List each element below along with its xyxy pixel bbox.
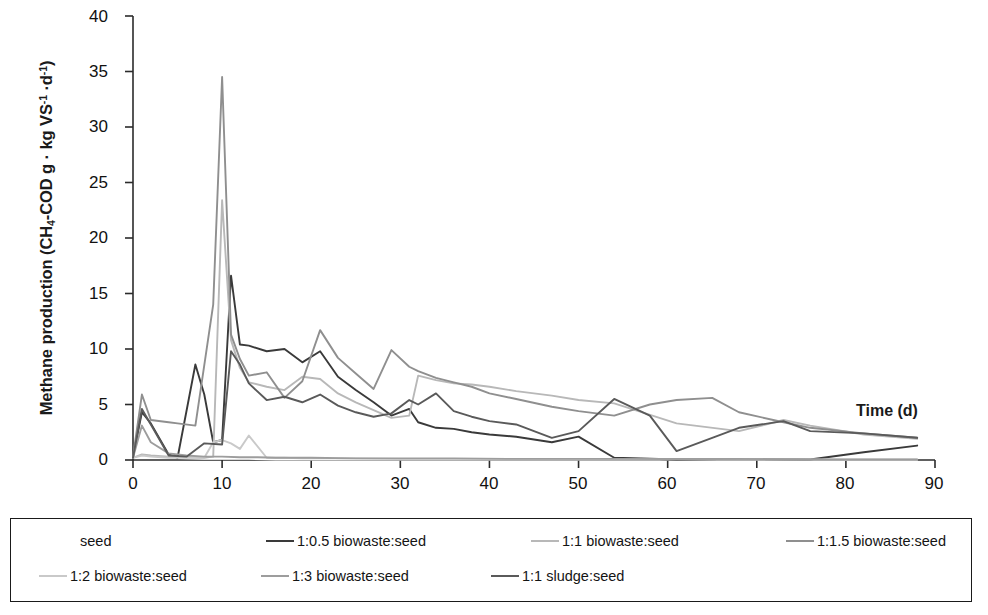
legend-swatch-icon	[491, 575, 519, 577]
legend-swatch-icon	[531, 540, 559, 542]
y-tick-label: 20	[62, 229, 108, 246]
x-tick-label: 30	[380, 475, 420, 492]
series-line	[133, 351, 917, 458]
series-line	[133, 276, 917, 460]
x-tick-label: 90	[914, 475, 954, 492]
series-line	[133, 436, 917, 460]
legend-item[interactable]: 1:2 biowaste:seed	[39, 561, 187, 591]
y-axis-title: Methane production (CH4-COD g · kg VS-1 …	[37, 3, 57, 473]
legend-item[interactable]: 1:1.5 biowaste:seed	[786, 526, 946, 556]
y-tick-label: 35	[62, 63, 108, 80]
legend-label: 1:1.5 biowaste:seed	[817, 533, 946, 549]
legend-swatch-icon	[39, 575, 67, 577]
y-tick-label: 25	[62, 174, 108, 191]
legend-label: seed	[80, 533, 111, 549]
y-tick-label: 10	[62, 340, 108, 357]
y-tick-label: 40	[62, 8, 108, 25]
series-line	[133, 77, 917, 457]
axis-lines	[125, 16, 935, 468]
legend-item[interactable]: 1:0.5 biowaste:seed	[266, 526, 426, 556]
x-tick-label: 20	[291, 475, 331, 492]
plot-area	[133, 16, 935, 460]
x-tick-label: 40	[469, 475, 509, 492]
series-line	[133, 200, 917, 458]
legend-row: 1:2 biowaste:seed1:3 biowaste:seed1:1 sl…	[11, 561, 971, 591]
legend-item[interactable]: 1:1 sludge:seed	[491, 561, 624, 591]
legend-row: seed1:0.5 biowaste:seed1:1 biowaste:seed…	[11, 526, 971, 556]
legend-swatch-icon	[49, 540, 77, 542]
x-tick-label: 80	[825, 475, 865, 492]
legend-label: 1:3 biowaste:seed	[292, 568, 409, 584]
y-tick-label: 15	[62, 285, 108, 302]
chart-legend: seed1:0.5 biowaste:seed1:1 biowaste:seed…	[10, 518, 972, 602]
legend-label: 1:1 biowaste:seed	[562, 533, 679, 549]
legend-swatch-icon	[786, 540, 814, 542]
chart-figure: Methane production (CH4-COD g · kg VS-1 …	[0, 0, 988, 615]
legend-label: 1:1 sludge:seed	[522, 568, 624, 584]
legend-item[interactable]: 1:1 biowaste:seed	[531, 526, 679, 556]
series-line	[133, 426, 917, 460]
y-tick-label: 30	[62, 118, 108, 135]
legend-item[interactable]: seed	[49, 526, 111, 556]
x-tick-label: 10	[202, 475, 242, 492]
series-lines	[133, 77, 917, 459]
legend-item[interactable]: 1:3 biowaste:seed	[261, 561, 409, 591]
legend-swatch-icon	[266, 540, 294, 542]
x-tick-label: 0	[113, 475, 153, 492]
x-tick-label: 60	[647, 475, 687, 492]
legend-swatch-icon	[261, 575, 289, 577]
legend-label: 1:2 biowaste:seed	[70, 568, 187, 584]
x-tick-label: 50	[558, 475, 598, 492]
chart-canvas	[133, 16, 935, 460]
legend-label: 1:0.5 biowaste:seed	[297, 533, 426, 549]
y-tick-label: 5	[62, 396, 108, 413]
x-tick-label: 70	[736, 475, 776, 492]
y-tick-label: 0	[62, 451, 108, 468]
